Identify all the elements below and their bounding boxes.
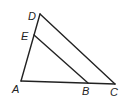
label-b: B <box>82 85 89 97</box>
label-d: D <box>28 10 36 22</box>
segment-eb <box>34 35 88 83</box>
triangle-diagram: D E A B C <box>0 0 127 98</box>
segment-ad <box>21 14 40 81</box>
label-c: C <box>110 86 118 98</box>
label-a: A <box>11 83 19 95</box>
segment-ac <box>21 81 115 84</box>
label-e: E <box>21 30 29 42</box>
